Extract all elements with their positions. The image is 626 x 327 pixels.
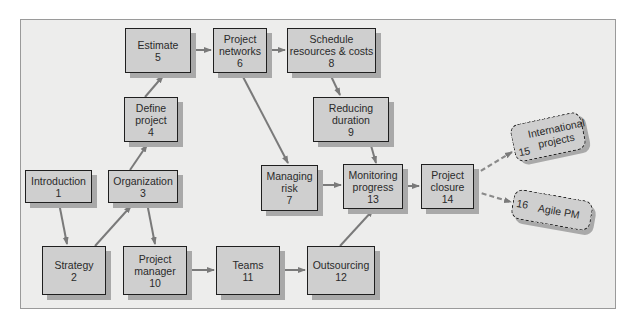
edge-3-4	[130, 145, 147, 170]
node-number: 15	[517, 144, 531, 158]
node-number: 13	[367, 193, 379, 205]
node-number: 14	[442, 193, 454, 205]
edge-1-2	[59, 203, 67, 244]
node-label: resources & costs	[290, 45, 373, 57]
node-label: Monitoring	[348, 169, 397, 181]
node-define-project: Define project 4	[124, 97, 178, 142]
node-number: 10	[149, 277, 161, 289]
node-label: networks	[219, 45, 261, 57]
node-project-closure: Project closure 14	[421, 164, 474, 209]
node-label: Agile PM	[537, 202, 580, 221]
node-teams: Teams 11	[216, 246, 280, 295]
node-monitoring-progress: Monitoring progress 13	[343, 164, 403, 209]
node-label: Schedule	[310, 33, 354, 45]
node-label: Project	[224, 33, 257, 45]
node-label: progress	[353, 181, 394, 193]
node-label: Project	[139, 253, 172, 265]
node-number: 1	[56, 187, 62, 199]
node-label: Estimate	[138, 39, 179, 51]
node-number: 4	[148, 126, 154, 138]
node-strategy: Strategy 2	[42, 246, 106, 295]
node-label: project	[135, 114, 167, 126]
node-number: 5	[155, 51, 161, 63]
node-organization: Organization 3	[108, 170, 178, 203]
node-project-manager: Project manager 10	[123, 246, 187, 295]
node-estimate: Estimate 5	[125, 28, 191, 73]
node-reducing-duration: Reducing duration 9	[313, 97, 389, 142]
node-label: Strategy	[54, 259, 93, 271]
node-label: Organization	[113, 175, 173, 187]
edge-14-15	[474, 152, 512, 175]
node-label: closure	[431, 181, 465, 193]
node-schedule-resources: Schedule resources & costs 8	[287, 28, 376, 73]
edge-4-5	[145, 76, 163, 97]
node-label: Define	[136, 102, 166, 114]
node-label: Reducing	[329, 102, 373, 114]
node-number: 8	[329, 57, 335, 69]
node-number: 3	[140, 187, 146, 199]
edge-2-3	[95, 206, 131, 246]
node-number: 6	[237, 57, 243, 69]
node-label: manager	[134, 265, 175, 277]
node-label: Managing	[266, 170, 312, 182]
node-number: 11	[243, 271, 254, 283]
node-managing-risk: Managing risk 7	[261, 165, 318, 211]
edge-8-9	[330, 74, 340, 95]
node-label: Teams	[233, 259, 264, 271]
node-label: Introduction	[31, 175, 86, 187]
node-label: duration	[332, 114, 370, 126]
node-number: 16	[516, 197, 530, 211]
node-number: 9	[348, 126, 354, 138]
node-label: Project	[431, 169, 464, 181]
node-label: Outsourcing	[313, 259, 370, 271]
edge-9-13	[370, 142, 376, 163]
node-project-networks: Project networks 6	[213, 28, 267, 73]
edge-6-7	[241, 73, 288, 163]
edge-12-13	[340, 210, 373, 246]
node-introduction: Introduction 1	[25, 170, 92, 203]
node-number: 2	[71, 271, 77, 283]
node-number: 7	[287, 194, 293, 206]
node-number: 12	[335, 271, 347, 283]
edge-3-10	[147, 203, 155, 244]
node-outsourcing: Outsourcing 12	[307, 246, 375, 295]
node-label: risk	[281, 182, 297, 194]
edge-14-16	[474, 191, 511, 202]
